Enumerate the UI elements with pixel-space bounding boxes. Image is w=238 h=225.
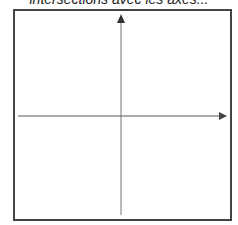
diagram-frame [14,10,231,220]
axes-diagram [0,0,238,225]
y-axis-arrow-icon [117,14,125,23]
x-axis-arrow-icon [219,112,227,120]
